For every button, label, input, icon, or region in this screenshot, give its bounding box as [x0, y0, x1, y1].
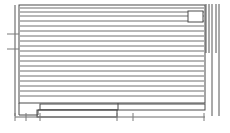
architectural-elevation-drawing	[0, 0, 230, 133]
drawing-canvas	[0, 0, 230, 133]
wall-elevation-panel	[19, 5, 205, 103]
window-opening	[188, 11, 203, 22]
right-vertical-framing	[206, 4, 216, 53]
floor-slab-outline	[40, 104, 205, 110]
left-elevation-markers	[7, 34, 19, 49]
lower-slab-outline	[37, 110, 117, 117]
